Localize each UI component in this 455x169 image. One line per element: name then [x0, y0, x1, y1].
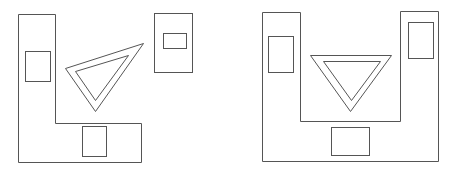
- left-bar-window: [269, 37, 294, 73]
- triangle-inner: [324, 62, 381, 101]
- detached-rect-window: [164, 34, 187, 49]
- left-figure: [19, 14, 193, 163]
- triangle-outer: [311, 56, 392, 112]
- bottom-window: [332, 128, 370, 156]
- right-figure: [263, 12, 439, 162]
- right-bar-window: [409, 23, 434, 59]
- u-shape: [263, 12, 439, 162]
- vertical-bar-window: [26, 52, 51, 82]
- bottom-bar-window: [83, 127, 107, 157]
- triangle-outer: [66, 44, 144, 112]
- diagram-canvas: [0, 0, 455, 169]
